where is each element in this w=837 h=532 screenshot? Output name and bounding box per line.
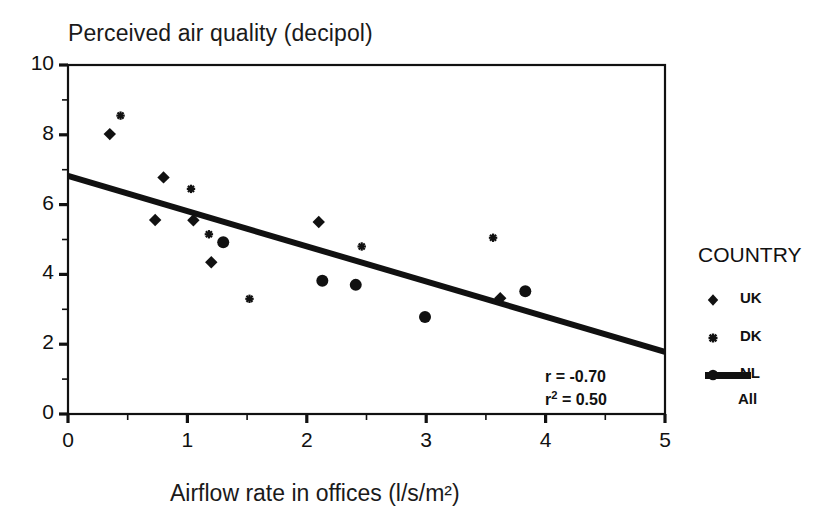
y-axis-ticks [59,65,68,414]
y-tick-label: 6 [10,191,54,215]
y-tick-label: 0 [10,400,54,424]
asterisk-marker-icon [706,331,720,345]
x-axis-title: Airflow rate in offices (l/s/m²) [170,480,460,507]
y-tick-label: 8 [10,121,54,145]
x-tick-label: 3 [409,428,443,452]
diamond-marker-icon [706,293,720,307]
legend-entry-dk[interactable]: DK [700,325,830,349]
legend-label-all: All [738,390,757,407]
y-tick-label: 2 [10,330,54,354]
line-swatch-icon [705,372,751,379]
r-squared-annotation: r2 = 0.50 [545,389,607,409]
x-axis-ticks [68,414,665,423]
legend-label-dk: DK [740,327,762,344]
x-tick-label: 2 [290,428,324,452]
x-tick-label: 1 [170,428,204,452]
plot-frame [68,65,665,414]
correlation-annotation: r = -0.70 [545,368,606,386]
y-tick-label: 4 [10,260,54,284]
chart-figure: Perceived air quality (decipol) 0246810 … [0,0,837,532]
legend-label-uk: UK [740,289,762,306]
y-tick-label: 10 [10,51,54,75]
x-tick-label: 5 [648,428,682,452]
legend-entry-uk[interactable]: UK [700,287,830,311]
x-tick-label: 0 [51,428,85,452]
r-squared-suffix: = 0.50 [557,391,606,408]
x-tick-label: 4 [529,428,563,452]
legend-title: COUNTRY [698,243,801,267]
